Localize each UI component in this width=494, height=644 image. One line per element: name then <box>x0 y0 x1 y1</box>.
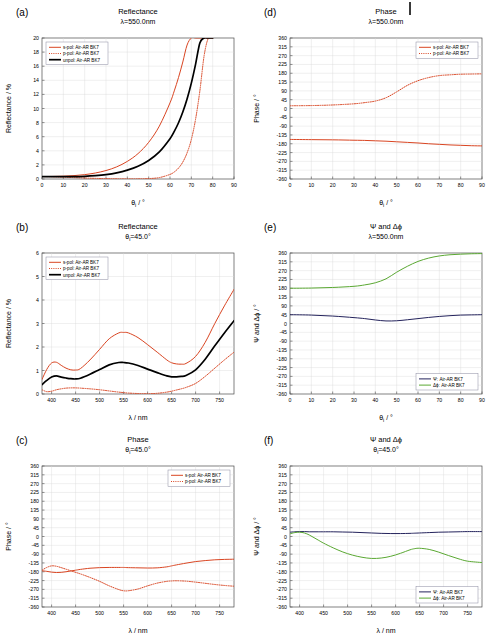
svg-text:500: 500 <box>343 610 352 616</box>
svg-text:80: 80 <box>458 182 464 188</box>
panel-c: (c)Phaseθi=45.0°400450500550600650700750… <box>0 428 246 641</box>
svg-text:0: 0 <box>36 176 39 182</box>
svg-text:650: 650 <box>167 397 176 403</box>
y-axis-label: Ψ and Δϕ / ° <box>253 304 261 343</box>
svg-text:60: 60 <box>415 182 421 188</box>
svg-text:-180: -180 <box>29 569 39 575</box>
svg-text:-315: -315 <box>277 382 287 388</box>
svg-text:550: 550 <box>367 610 376 616</box>
svg-text:0: 0 <box>284 106 287 112</box>
svg-text:-135: -135 <box>277 132 287 138</box>
svg-text:450: 450 <box>71 397 80 403</box>
svg-text:18: 18 <box>33 49 39 55</box>
svg-text:s-pol: Air-AR BK7: s-pol: Air-AR BK7 <box>63 45 99 50</box>
svg-text:0: 0 <box>289 397 292 403</box>
panel-subtitle: θi=45.0° <box>125 446 151 455</box>
svg-text:30: 30 <box>351 182 357 188</box>
y-axis-label: Phase / ° <box>5 522 12 551</box>
svg-text:-225: -225 <box>277 365 287 371</box>
svg-text:270: 270 <box>278 53 287 59</box>
svg-text:90: 90 <box>281 88 287 94</box>
svg-text:0: 0 <box>36 391 39 397</box>
svg-text:-180: -180 <box>277 141 287 147</box>
svg-text:180: 180 <box>278 70 287 76</box>
svg-text:70: 70 <box>436 182 442 188</box>
svg-text:45: 45 <box>281 97 287 103</box>
svg-text:50: 50 <box>394 397 400 403</box>
svg-text:650: 650 <box>415 610 424 616</box>
svg-text:180: 180 <box>278 498 287 504</box>
legend: s-pol: Air-AR BK7p-pol: Air-AR BK7 <box>168 470 230 486</box>
svg-text:3: 3 <box>36 321 39 327</box>
figure-canvas: (a)Reflectanceλ=550.0nm01020304050607080… <box>0 0 494 644</box>
svg-text:750: 750 <box>463 610 472 616</box>
svg-text:4: 4 <box>36 297 39 303</box>
legend: s-pol: Air-AR BK7p-pol: Air-AR BK7unpol:… <box>46 257 108 280</box>
svg-text:700: 700 <box>191 397 200 403</box>
svg-text:-360: -360 <box>277 604 287 610</box>
svg-text:-225: -225 <box>277 578 287 584</box>
svg-text:180: 180 <box>30 498 39 504</box>
svg-text:6: 6 <box>36 134 39 140</box>
svg-text:-45: -45 <box>280 329 288 335</box>
svg-text:-90: -90 <box>280 123 288 129</box>
svg-text:-135: -135 <box>277 560 287 566</box>
svg-text:135: 135 <box>278 507 287 513</box>
panel-tag: (a) <box>16 7 28 18</box>
panel-subtitle: θi=45.0° <box>125 233 151 242</box>
svg-text:270: 270 <box>278 268 287 274</box>
svg-text:10: 10 <box>60 182 66 188</box>
svg-text:-360: -360 <box>277 391 287 397</box>
svg-text:135: 135 <box>278 294 287 300</box>
svg-text:unpol: Air-AR BK7: unpol: Air-AR BK7 <box>63 58 100 63</box>
svg-text:-90: -90 <box>280 338 288 344</box>
svg-text:550: 550 <box>119 610 128 616</box>
svg-text:Δϕ: Air-AR BK7: Δϕ: Air-AR BK7 <box>433 596 465 601</box>
svg-text:45: 45 <box>281 525 287 531</box>
y-axis-label: Ψ and Δϕ / ° <box>253 517 261 556</box>
plot-a: (a)Reflectanceλ=550.0nm01020304050607080… <box>0 0 246 213</box>
legend: Ψ: Air-AR BK7Δϕ: Air-AR BK7 <box>416 374 478 390</box>
panel-e: (e)Ψ and Δϕλ=550.0nm0102030405060708090-… <box>248 215 494 428</box>
panel-title: Ψ and Δϕ <box>370 222 402 231</box>
svg-text:135: 135 <box>278 79 287 85</box>
svg-text:20: 20 <box>33 35 39 41</box>
svg-text:20: 20 <box>82 182 88 188</box>
y-axis-label: Phase / ° <box>253 94 260 123</box>
y-axis-label: Reflectance / % <box>5 84 12 133</box>
svg-text:700: 700 <box>191 610 200 616</box>
svg-text:6: 6 <box>36 250 39 256</box>
svg-text:0: 0 <box>36 534 39 540</box>
svg-text:-270: -270 <box>29 586 39 592</box>
plot-c: (c)Phaseθi=45.0°400450500550600650700750… <box>0 428 246 641</box>
legend: Ψ: Air-AR BK7Δϕ: Air-AR BK7 <box>416 587 478 603</box>
x-axis-label: λ / nm <box>376 627 395 634</box>
svg-text:-45: -45 <box>32 542 40 548</box>
panel-f: (f)Ψ and Δϕθi=45.0°400450500550600650700… <box>248 428 494 641</box>
svg-text:750: 750 <box>215 610 224 616</box>
plot-d: (d)Phaseλ=550.0nm0102030405060708090-360… <box>248 0 494 213</box>
svg-text:400: 400 <box>47 610 56 616</box>
panel-tag: (c) <box>16 435 28 446</box>
legend: s-pol: Air-AR BK7p-pol: Air-AR BK7unpol:… <box>46 42 108 65</box>
svg-text:45: 45 <box>33 525 39 531</box>
plot-e: (e)Ψ and Δϕλ=550.0nm0102030405060708090-… <box>248 215 494 428</box>
svg-text:360: 360 <box>278 250 287 256</box>
svg-text:550: 550 <box>119 397 128 403</box>
svg-text:180: 180 <box>278 285 287 291</box>
svg-text:-225: -225 <box>29 578 39 584</box>
svg-text:14: 14 <box>33 77 39 83</box>
svg-text:-225: -225 <box>277 150 287 156</box>
plot-b: (b)Reflectanceθi=45.0°400450500550600650… <box>0 215 246 428</box>
panel-title: Phase <box>127 435 148 444</box>
x-axis-label: λ / nm <box>128 627 147 634</box>
svg-text:-45: -45 <box>280 542 288 548</box>
svg-text:0: 0 <box>284 534 287 540</box>
svg-text:-270: -270 <box>277 158 287 164</box>
svg-text:40: 40 <box>372 397 378 403</box>
svg-text:Ψ: Air-AR BK7: Ψ: Air-AR BK7 <box>433 377 463 382</box>
svg-text:400: 400 <box>295 610 304 616</box>
svg-text:90: 90 <box>231 182 237 188</box>
svg-text:70: 70 <box>436 397 442 403</box>
svg-text:90: 90 <box>281 303 287 309</box>
